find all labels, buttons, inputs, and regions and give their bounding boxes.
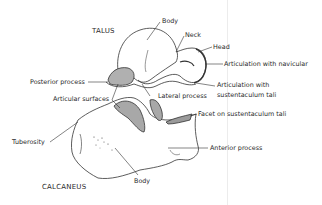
calcaneus-texture-dots — [93, 136, 112, 150]
label-facet-sustentaculum: Facet on sustentaculum tali — [198, 111, 286, 118]
label-articulation-sustentaculum-line1: Articulation with — [217, 82, 269, 89]
calcaneus-sustentaculum-facet — [166, 114, 192, 124]
bone-title-talus: TALUS — [92, 27, 115, 35]
bone-illustration — [0, 0, 322, 205]
label-calcaneus-body: Body — [134, 178, 150, 185]
calcaneus-anterior-notch — [170, 150, 180, 155]
leader-lateral-process — [142, 84, 150, 96]
leader-articulation-sustentaculum — [196, 83, 215, 86]
talus-shading-stroke — [180, 61, 194, 66]
label-tuberosity: Tuberosity — [12, 139, 45, 146]
label-head: Head — [213, 44, 230, 51]
talus-posterior-articular-surface — [108, 68, 134, 86]
leader-talus-body — [147, 22, 160, 40]
calcaneus-tuberosity-mark — [80, 134, 82, 154]
talus-neck-head-outline — [138, 48, 206, 84]
label-articulation-navicular: Articulation with navicular — [224, 61, 308, 68]
calcaneus-middle-facet — [150, 100, 162, 121]
leader-calcaneus-body — [115, 148, 138, 175]
talus-head-rim — [194, 49, 206, 83]
talus-groove-line — [145, 50, 148, 72]
calcaneus-posterior-facet — [114, 101, 145, 132]
label-neck: Neck — [185, 32, 201, 39]
leader-head — [198, 47, 212, 52]
label-anterior-process: Anterior process — [210, 145, 262, 152]
leader-tuberosity — [50, 122, 78, 142]
calcaneus-bone — [71, 97, 198, 178]
bone-title-calcaneus: CALCANEUS — [42, 183, 86, 191]
label-talus-body: Body — [162, 18, 178, 25]
label-articular-surfaces: Articular surfaces — [53, 96, 109, 103]
label-articulation-sustentaculum-line2: sustentaculum tali — [217, 92, 276, 99]
label-posterior-process: Posterior process — [30, 79, 85, 86]
label-lateral-process: Lateral process — [158, 93, 207, 100]
